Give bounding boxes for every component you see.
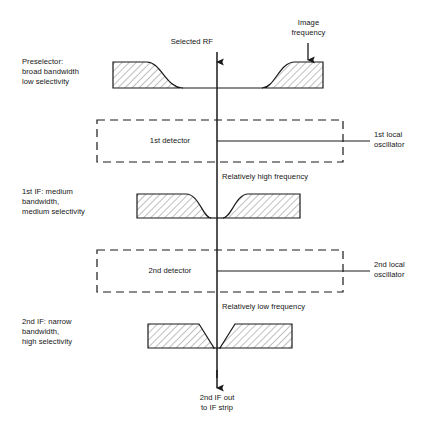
first-if-stage-label: 1st IF: medium bandwidth, medium selecti… xyxy=(22,187,85,217)
preselector-stage-label: Preselector: broad bandwidth low selecti… xyxy=(22,57,79,87)
relatively-high-frequency-label: Relatively high frequency xyxy=(222,172,308,182)
first-if-right-lobe xyxy=(223,194,300,218)
selected-rf-label: Selected RF xyxy=(118,37,213,47)
output-label: 2nd IF out to IF strip xyxy=(177,393,257,413)
second-if-left-lobe xyxy=(148,324,214,348)
superhet-selectivity-diagram: Preselector: broad bandwidth low selecti… xyxy=(0,0,433,426)
second-if-stage-label: 2nd IF: narrow bandwidth, high selectivi… xyxy=(22,317,72,347)
first-local-oscillator-label: 1st local oscillator xyxy=(374,130,404,150)
first-if-left-lobe xyxy=(137,194,211,218)
relatively-low-frequency-label: Relatively low frequency xyxy=(222,302,305,312)
second-if-response xyxy=(148,324,292,348)
second-local-oscillator-label: 2nd local oscillator xyxy=(374,260,405,280)
second-if-right-lobe xyxy=(220,324,292,348)
first-if-response xyxy=(137,194,300,218)
preselector-right-lobe xyxy=(262,62,323,88)
image-frequency-label: Image frequency xyxy=(281,18,336,38)
preselector-left-lobe xyxy=(113,62,183,88)
second-detector-label: 2nd detector xyxy=(125,266,215,276)
first-detector-label: 1st detector xyxy=(125,136,215,146)
preselector-response xyxy=(113,62,323,88)
